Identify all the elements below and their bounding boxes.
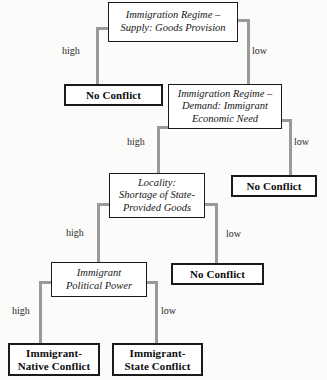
node-no-conflict-2[interactable]: No Conflict <box>231 175 317 197</box>
node-label: Immigration Regime – Supply: Goods Provi… <box>109 9 237 34</box>
node-label: No Conflict <box>173 268 262 281</box>
connector-supply-low-vertical <box>247 19 250 85</box>
edge-label-demand-low: low <box>294 136 309 147</box>
node-label: Locality: Shortage of State- Provided Go… <box>110 177 204 215</box>
node-no-conflict-3[interactable]: No Conflict <box>171 263 264 285</box>
connector-supply-high-vertical <box>96 27 99 85</box>
node-label: Immigration Regime – Demand: Immigrant E… <box>169 88 281 126</box>
node-label: Immigrant- Native Conflict <box>10 347 98 373</box>
edge-label-supply-high: high <box>62 45 80 56</box>
connector-locality-low-vertical <box>215 203 218 265</box>
connector-power-low-vertical <box>155 281 158 344</box>
node-immigration-regime-demand[interactable]: Immigration Regime – Demand: Immigrant E… <box>168 84 282 129</box>
node-label: Immigrant Political Power <box>52 267 146 292</box>
edge-label-power-high: high <box>12 305 30 316</box>
connector-demand-low-vertical <box>289 119 292 177</box>
node-label: No Conflict <box>66 89 161 102</box>
edge-label-locality-low: low <box>226 228 241 239</box>
decision-tree-diagram: Immigration Regime – Supply: Goods Provi… <box>0 0 327 380</box>
edge-label-power-low: low <box>161 305 176 316</box>
node-immigration-regime-supply[interactable]: Immigration Regime – Supply: Goods Provi… <box>108 2 238 42</box>
node-no-conflict-1[interactable]: No Conflict <box>64 84 163 106</box>
connector-locality-high-vertical <box>97 203 100 264</box>
node-immigrant-political-power[interactable]: Immigrant Political Power <box>51 262 147 297</box>
edge-label-supply-low: low <box>252 45 267 56</box>
edge-label-demand-high: high <box>127 136 145 147</box>
node-immigrant-state-conflict[interactable]: Immigrant- State Conflict <box>112 343 203 376</box>
node-immigrant-native-conflict[interactable]: Immigrant- Native Conflict <box>8 343 100 376</box>
node-label: No Conflict <box>233 180 315 193</box>
connector-demand-high-vertical <box>157 126 160 174</box>
connector-power-high-vertical <box>39 281 42 344</box>
node-label: Immigrant- State Conflict <box>114 347 201 373</box>
node-locality-shortage[interactable]: Locality: Shortage of State- Provided Go… <box>109 173 205 218</box>
edge-label-locality-high: high <box>66 227 84 238</box>
